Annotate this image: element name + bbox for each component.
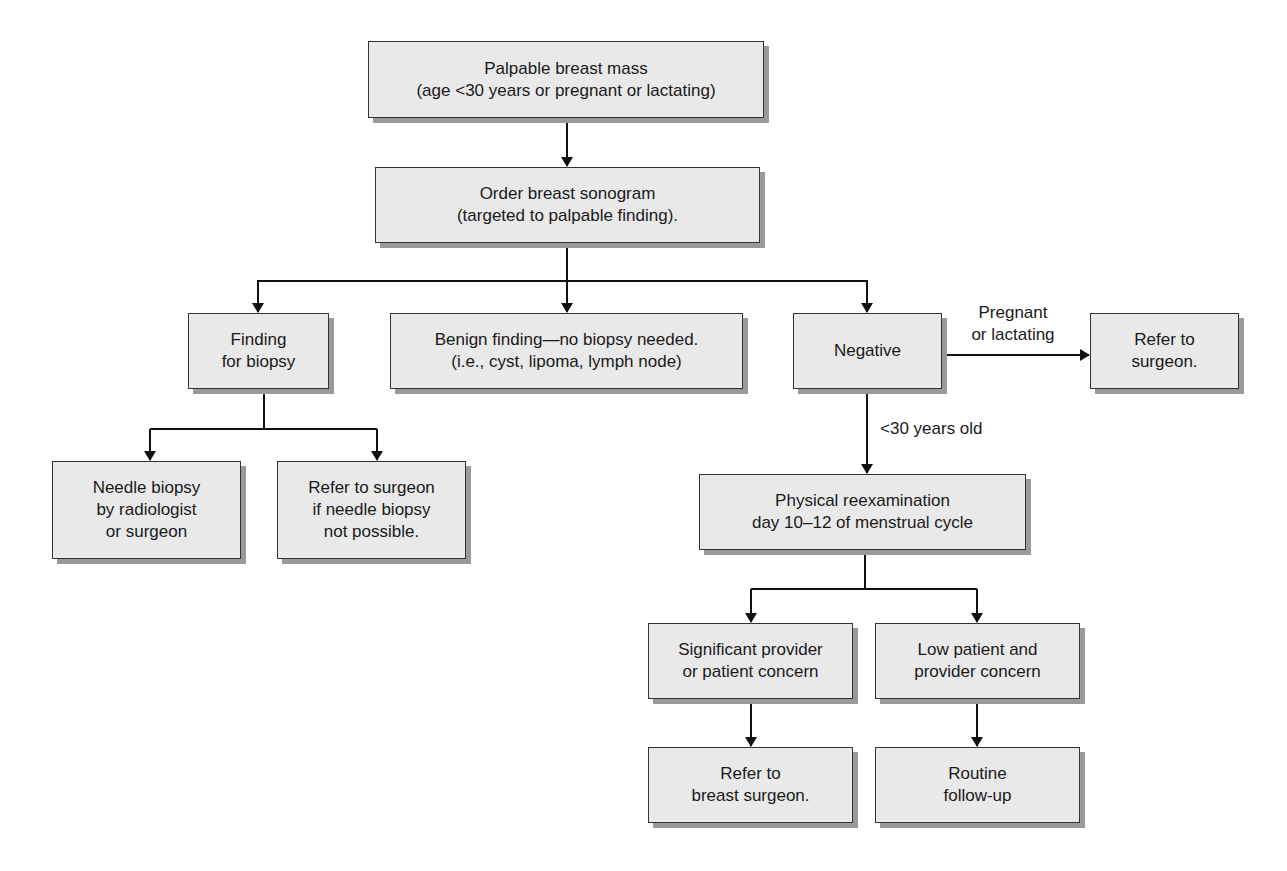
node-order-sonogram: Order breast sonogram (targeted to palpa… [375,167,760,243]
node-label: Physical reexamination day 10–12 of mens… [752,490,973,534]
node-label: Order breast sonogram (targeted to palpa… [457,183,678,227]
node-refer-if-not-possible: Refer to surgeon if needle biopsy not po… [277,461,466,559]
node-label: Refer to breast surgeon. [691,763,809,807]
node-label: Refer to surgeon. [1131,329,1197,373]
node-routine-followup: Routine follow-up [875,747,1080,823]
node-physical-reexamination: Physical reexamination day 10–12 of mens… [699,474,1026,550]
node-benign-finding: Benign finding—no biopsy needed. (i.e., … [390,313,743,389]
node-label: Low patient and provider concern [914,639,1041,683]
node-low-concern: Low patient and provider concern [875,623,1080,699]
node-label: Significant provider or patient concern [678,639,823,683]
flowchart-canvas: Palpable breast mass (age <30 years or p… [0,0,1287,871]
node-label: Routine follow-up [943,763,1011,807]
node-label: Needle biopsy by radiologist or surgeon [93,477,201,543]
node-label: Benign finding—no biopsy needed. (i.e., … [435,329,699,373]
node-label: Negative [834,340,901,362]
node-label: Palpable breast mass (age <30 years or p… [416,58,715,102]
node-refer-breast-surgeon: Refer to breast surgeon. [648,747,853,823]
edge-label-pregnant-lactating: Pregnant or lactating [948,302,1078,346]
node-label: Refer to surgeon if needle biopsy not po… [308,477,435,543]
node-refer-to-surgeon: Refer to surgeon. [1090,313,1239,389]
node-label: Finding for biopsy [222,329,296,373]
node-finding-for-biopsy: Finding for biopsy [188,313,329,389]
edge-label-under-30: <30 years old [880,418,1020,440]
node-palpable-breast-mass: Palpable breast mass (age <30 years or p… [368,41,764,118]
node-significant-concern: Significant provider or patient concern [648,623,853,699]
node-needle-biopsy: Needle biopsy by radiologist or surgeon [52,461,241,559]
connector-lines [0,0,1287,871]
node-negative: Negative [793,313,942,389]
